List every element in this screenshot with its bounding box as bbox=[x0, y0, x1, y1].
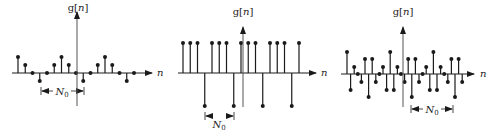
y-axis-label: g[n] bbox=[393, 6, 414, 17]
periodic-signals-figure: g[n] n N0 g[n] n N0 g[n] n N0 bbox=[0, 0, 498, 137]
x-axis-label: n bbox=[157, 67, 163, 78]
plot-3: g[n] n N0 bbox=[341, 6, 486, 117]
y-axis-label: g[n] bbox=[68, 2, 89, 13]
x-axis-label: n bbox=[480, 68, 486, 79]
period-label: N0 bbox=[211, 119, 225, 132]
plot-2: g[n] n N0 bbox=[178, 6, 327, 132]
period-label: N0 bbox=[424, 104, 438, 117]
plot-1: g[n] n N0 bbox=[12, 2, 163, 106]
x-axis-label: n bbox=[321, 67, 327, 78]
period-label: N0 bbox=[54, 86, 68, 99]
y-axis-label: g[n] bbox=[233, 6, 254, 17]
